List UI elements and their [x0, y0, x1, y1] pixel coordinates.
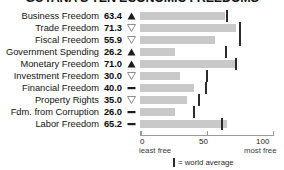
row-label: Financial Freedom	[0, 82, 99, 94]
row-score: 35.0	[100, 94, 122, 106]
trend-down-icon	[126, 70, 137, 82]
axis-note-least-free: least free	[139, 146, 171, 155]
trend-up-icon	[126, 58, 137, 70]
world-average-marker	[226, 10, 228, 22]
trend-down-icon	[126, 34, 137, 46]
row-label: Business Freedom	[0, 10, 99, 22]
axis-tick-label-100: 100	[256, 137, 269, 146]
row-plot	[140, 58, 274, 70]
axis-tick-50	[207, 131, 208, 135]
row-label: Trade Freedom	[0, 22, 99, 34]
chart-row: Monetary Freedom71.0	[0, 58, 284, 70]
chart-row: Business Freedom63.4	[0, 10, 284, 22]
axis-notes: least free most free	[136, 146, 281, 156]
row-score: 26.2	[100, 46, 122, 58]
bar	[140, 72, 180, 80]
world-average-marker	[198, 94, 200, 106]
trend-up-icon	[126, 10, 137, 22]
row-score: 63.4	[100, 10, 122, 22]
x-axis	[140, 131, 274, 136]
row-label: Fiscal Freedom	[0, 34, 99, 46]
row-label: Labor Freedom	[0, 118, 99, 130]
row-plot	[140, 106, 274, 118]
bar	[140, 12, 225, 20]
chart-row: Investment Freedom30.0	[0, 70, 284, 82]
chart-row: Fdm. from Corruption26.0	[0, 106, 284, 118]
bar	[140, 120, 227, 128]
row-plot	[140, 94, 274, 106]
row-label: Property Rights	[0, 94, 99, 106]
chart-row: Trade Freedom71.3	[0, 22, 284, 34]
bar	[140, 108, 175, 116]
row-label: Government Spending	[0, 46, 99, 58]
world-average-marker	[235, 58, 237, 70]
trend-down-icon	[126, 94, 137, 106]
axis-tick-0	[141, 131, 142, 135]
bar	[140, 36, 215, 44]
chart-row: Labor Freedom65.2	[0, 118, 284, 130]
bar	[140, 48, 175, 56]
row-score: 26.0	[100, 106, 122, 118]
world-average-marker-icon	[173, 158, 175, 167]
page-title: GUYANA'S TEN ECONOMIC FREEDOMS	[0, 0, 284, 5]
bar	[140, 84, 194, 92]
row-plot	[140, 118, 274, 130]
axis-tick-100	[273, 131, 274, 135]
trend-flat-icon	[126, 118, 137, 130]
bar	[140, 96, 187, 104]
world-average-marker	[193, 106, 195, 118]
row-score: 55.9	[100, 34, 122, 46]
row-label: Fdm. from Corruption	[0, 106, 99, 118]
world-average-marker	[221, 118, 223, 130]
row-score: 40.0	[100, 82, 122, 94]
row-score: 71.3	[100, 22, 122, 34]
legend-label: = world average	[178, 158, 234, 167]
row-score: 71.0	[100, 58, 122, 70]
trend-flat-icon	[126, 82, 137, 94]
world-average-marker	[225, 46, 227, 58]
chart-row: Financial Freedom40.0	[0, 82, 284, 94]
trend-up-icon	[126, 46, 137, 58]
chart-row: Fiscal Freedom55.9	[0, 34, 284, 46]
row-label: Investment Freedom	[0, 70, 99, 82]
row-plot	[140, 22, 274, 34]
axis-tick-labels: 0 50 100	[136, 137, 281, 146]
row-plot	[140, 82, 274, 94]
axis-tick-label-0: 0	[140, 137, 144, 146]
chart-legend: = world average	[173, 156, 234, 168]
chart-row: Government Spending26.2	[0, 46, 284, 58]
chart-row: Property Rights35.0	[0, 94, 284, 106]
row-plot	[140, 34, 274, 46]
bar	[140, 60, 235, 68]
trend-down-icon	[126, 22, 137, 34]
row-score: 65.2	[100, 118, 122, 130]
axis-note-most-free: most free	[244, 146, 277, 155]
bar	[140, 24, 236, 32]
chart-rows: Business Freedom63.4Trade Freedom71.3Fis…	[0, 10, 284, 130]
world-average-marker	[205, 82, 207, 94]
economic-freedoms-chart: GUYANA'S TEN ECONOMIC FREEDOMS Business …	[0, 0, 284, 170]
row-plot	[140, 70, 274, 82]
row-label: Monetary Freedom	[0, 58, 99, 70]
world-average-marker	[239, 22, 241, 34]
row-score: 30.0	[100, 70, 122, 82]
world-average-marker	[239, 34, 241, 46]
trend-flat-icon	[126, 106, 137, 118]
axis-tick-label-50: 50	[199, 137, 208, 146]
row-plot	[140, 10, 274, 22]
row-plot	[140, 46, 274, 58]
world-average-marker	[206, 70, 208, 82]
